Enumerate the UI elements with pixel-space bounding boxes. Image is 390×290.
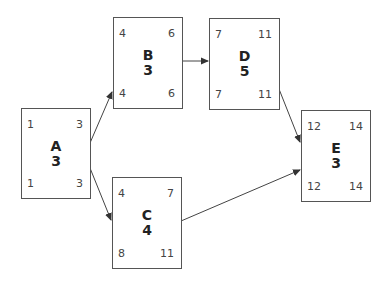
node-b-early-start: 4: [119, 28, 126, 39]
edge-a-b: [90, 92, 112, 143]
node-d-late-start: 7: [215, 89, 222, 100]
node-c-label: C 4: [113, 208, 181, 238]
node-b-id: B: [114, 48, 182, 63]
node-a-late-start: 1: [27, 178, 34, 189]
node-a-early-finish: 3: [76, 119, 83, 130]
node-b: 4 6 B 3 4 6: [113, 17, 183, 109]
node-c-late-finish: 11: [160, 248, 174, 259]
node-c-id: C: [113, 208, 181, 223]
node-d: 7 11 D 5 7 11: [209, 18, 280, 110]
node-e-duration: 3: [302, 156, 370, 171]
edge-d-e: [279, 89, 300, 142]
node-b-early-finish: 6: [168, 28, 175, 39]
node-c-duration: 4: [113, 223, 181, 238]
node-e-early-start: 12: [307, 121, 321, 132]
edge-a-c: [90, 168, 111, 220]
node-d-early-start: 7: [215, 29, 222, 40]
node-c-late-start: 8: [118, 248, 125, 259]
node-b-late-start: 4: [119, 88, 126, 99]
edge-c-e: [181, 170, 300, 221]
node-d-duration: 5: [210, 64, 279, 79]
node-a-label: A 3: [22, 139, 90, 169]
node-b-duration: 3: [114, 63, 182, 78]
node-e-id: E: [302, 141, 370, 156]
node-a-late-finish: 3: [76, 178, 83, 189]
node-a-duration: 3: [22, 154, 90, 169]
node-b-late-finish: 6: [168, 88, 175, 99]
node-d-late-finish: 11: [258, 89, 272, 100]
node-a: 1 3 A 3 1 3: [21, 108, 91, 199]
node-a-early-start: 1: [27, 119, 34, 130]
node-e: 12 14 E 3 12 14: [301, 110, 371, 202]
node-d-label: D 5: [210, 49, 279, 79]
node-e-label: E 3: [302, 141, 370, 171]
node-c-early-finish: 7: [167, 188, 174, 199]
node-e-late-start: 12: [307, 181, 321, 192]
node-d-early-finish: 11: [258, 29, 272, 40]
node-a-id: A: [22, 139, 90, 154]
node-c-early-start: 4: [118, 188, 125, 199]
node-b-label: B 3: [114, 48, 182, 78]
node-d-id: D: [210, 49, 279, 64]
node-c: 4 7 C 4 8 11: [112, 177, 182, 269]
node-e-early-finish: 14: [349, 121, 363, 132]
node-e-late-finish: 14: [349, 181, 363, 192]
